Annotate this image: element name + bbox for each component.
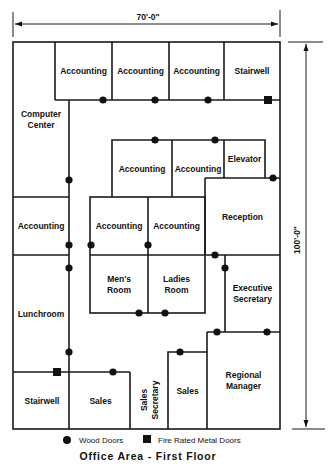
room-label-acct-4: Accounting [119, 164, 166, 174]
wood-door-icon [135, 309, 142, 316]
room-label-mens-room: Men'sRoom [107, 274, 132, 295]
wood-door-icon [99, 96, 106, 103]
wood-door-icon [263, 328, 270, 335]
wood-door-icon [176, 348, 183, 355]
room-label-acct-6: Accounting [96, 221, 143, 231]
wood-door-icon [213, 328, 220, 335]
room-label-acct-5: Accounting [175, 164, 222, 174]
wood-door-icon [204, 96, 211, 103]
height-dimension: 100'-0" [288, 42, 325, 429]
wood-door-icon [269, 174, 276, 181]
floor-plan: 70'-0" 100'-0" [0, 0, 335, 468]
wood-door-icon [151, 96, 158, 103]
room-label-stairwell-top: Stairwell [235, 66, 270, 76]
legend: Wood Doors Fire Rated Metal Doors [63, 435, 241, 445]
caption: Office Area - First Floor [80, 450, 217, 462]
metal-door-icon [53, 368, 61, 376]
room-label-acct-left: Accounting [18, 221, 65, 231]
wood-door-icon [87, 241, 94, 248]
wood-door-icon [63, 436, 71, 444]
width-label: 70'-0" [136, 12, 159, 22]
wood-door-icon [144, 241, 151, 248]
metal-door-icon [143, 435, 151, 443]
wood-door-icon [151, 136, 158, 143]
wood-door-icon [65, 348, 72, 355]
width-dimension: 70'-0" [13, 10, 280, 37]
room-label-acct-7: Accounting [153, 221, 200, 231]
wood-door-icon [161, 309, 168, 316]
legend-metal-label: Fire Rated Metal Doors [158, 436, 241, 445]
room-label-lunchroom: Lunchroom [18, 309, 65, 319]
room-labels: AccountingAccountingAccountingStairwellC… [18, 66, 273, 419]
room-label-sales-left: Sales [89, 396, 111, 406]
wood-door-icon [211, 136, 218, 143]
legend-wood-label: Wood Doors [79, 436, 123, 445]
room-label-ladies-room: LadiesRoom [163, 274, 190, 295]
room-label-acct-2: Accounting [117, 66, 164, 76]
room-label-sales-secretary: SalesSecretary [139, 380, 160, 419]
room-label-computer-center: ComputerCenter [21, 109, 62, 130]
doors [53, 96, 277, 376]
wood-door-icon [109, 368, 116, 375]
room-label-acct-3: Accounting [173, 66, 220, 76]
height-label: 100'-0" [292, 226, 302, 254]
room-label-elevator: Elevator [228, 154, 262, 164]
metal-door-icon [264, 96, 272, 104]
wood-door-icon [65, 241, 72, 248]
wood-door-icon [65, 176, 72, 183]
room-label-regional-manager: RegionalManager [226, 370, 262, 391]
room-label-executive-secretary: ExecutiveSecretary [233, 283, 273, 304]
room-label-acct-1: Accounting [60, 66, 107, 76]
wood-door-icon [211, 251, 218, 258]
room-label-sales-right: Sales [176, 386, 198, 396]
room-label-stairwell-bottom: Stairwell [25, 396, 60, 406]
wood-door-icon [221, 264, 228, 271]
room-label-reception: Reception [222, 212, 263, 222]
wood-door-icon [65, 264, 72, 271]
